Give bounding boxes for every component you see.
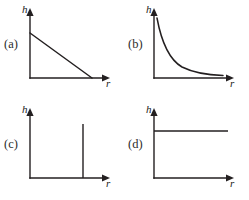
x-axis-label: r: [106, 78, 110, 89]
panel-d: (d) h r: [124, 100, 248, 200]
multiple-choice-graph-figure: (a) h r (b) h r (c) h: [0, 0, 249, 200]
panel-c: (c) h r: [0, 100, 124, 200]
y-axis-label: h: [146, 104, 152, 115]
x-axis-label: r: [230, 178, 234, 189]
panel-label-d: (d): [128, 138, 143, 151]
panel-label-a: (a): [4, 38, 18, 51]
curve-inverse-decay: [157, 18, 223, 76]
panel-label-b: (b): [128, 38, 143, 51]
panel-b: (b) h r: [124, 0, 248, 100]
x-axis-label: r: [106, 178, 110, 189]
y-axis-label: h: [22, 4, 28, 15]
panel-label-c: (c): [4, 138, 18, 151]
y-axis-label: h: [146, 4, 152, 15]
x-axis-label: r: [230, 78, 234, 89]
curve-linear-decreasing: [30, 33, 92, 78]
y-axis-label: h: [22, 104, 28, 115]
panel-a: (a) h r: [0, 0, 124, 100]
